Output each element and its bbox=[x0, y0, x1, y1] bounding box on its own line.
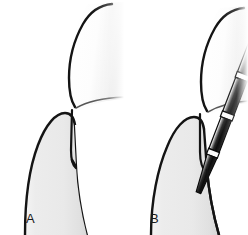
dental-illustration-figure: A bbox=[0, 0, 248, 235]
panel-a: A bbox=[0, 0, 124, 235]
panel-a-fade bbox=[92, 0, 124, 235]
panel-a-drawing bbox=[0, 0, 124, 235]
panel-b-drawing bbox=[124, 0, 248, 235]
panel-b: B bbox=[124, 0, 248, 235]
panel-b-label: B bbox=[150, 212, 159, 225]
panel-b-fade bbox=[220, 0, 248, 235]
panel-a-label: A bbox=[26, 212, 35, 225]
